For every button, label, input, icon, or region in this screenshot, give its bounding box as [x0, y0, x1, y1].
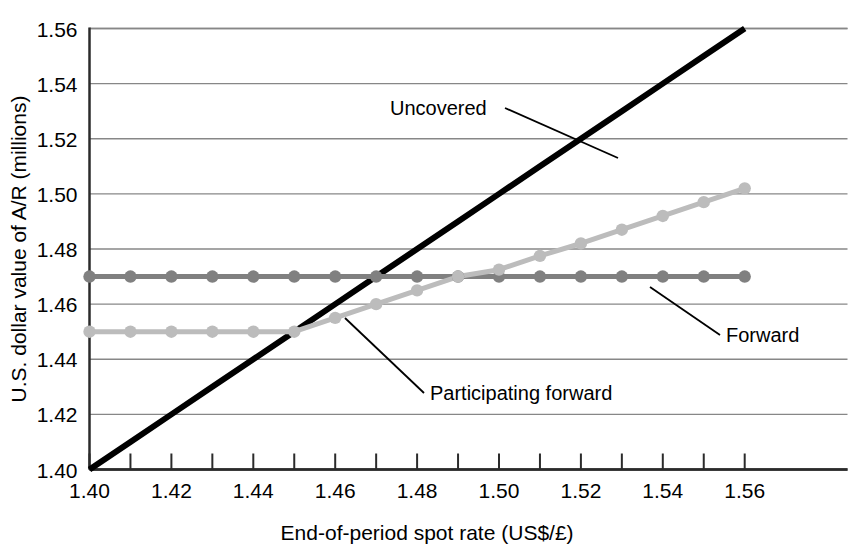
x-tick-label: 1.42 — [151, 479, 192, 502]
annotation-leader-line — [345, 318, 424, 393]
data-point-participating-forward — [739, 182, 751, 194]
y-tick-label: 1.44 — [37, 348, 78, 371]
data-point-participating-forward — [452, 270, 464, 282]
data-point-forward — [165, 270, 177, 282]
y-tick-label: 1.48 — [37, 238, 78, 261]
data-point-participating-forward — [165, 325, 177, 337]
data-point-participating-forward — [493, 263, 505, 275]
y-tick-label: 1.42 — [37, 403, 78, 426]
data-point-participating-forward — [657, 210, 669, 222]
data-point-participating-forward — [288, 325, 300, 337]
data-point-participating-forward — [83, 325, 95, 337]
y-tick-label: 1.54 — [37, 73, 78, 96]
annotation-leader-line — [650, 287, 720, 335]
annotation-label-participating-forward: Participating forward — [430, 382, 612, 404]
data-point-forward — [247, 270, 259, 282]
data-point-forward — [288, 270, 300, 282]
data-point-participating-forward — [370, 298, 382, 310]
data-point-participating-forward — [534, 250, 546, 262]
data-point-forward — [206, 270, 218, 282]
y-tick-label: 1.56 — [37, 18, 78, 41]
data-point-forward — [411, 270, 423, 282]
series-line-participating-forward — [90, 188, 745, 331]
chart-figure: 1.401.421.441.461.481.501.521.541.561.40… — [0, 0, 848, 560]
y-axis-title: U.S. dollar value of A/R (millions) — [7, 96, 30, 403]
y-tick-label: 1.50 — [37, 183, 78, 206]
data-point-participating-forward — [698, 196, 710, 208]
data-point-participating-forward — [575, 237, 587, 249]
x-tick-label: 1.50 — [479, 479, 520, 502]
data-point-forward — [83, 270, 95, 282]
data-point-forward — [534, 270, 546, 282]
x-tick-label: 1.46 — [315, 479, 356, 502]
data-point-forward — [124, 270, 136, 282]
data-point-forward — [739, 270, 751, 282]
data-point-participating-forward — [411, 284, 423, 296]
data-point-forward — [657, 270, 669, 282]
annotation-label-uncovered: Uncovered — [390, 97, 487, 119]
y-tick-label: 1.46 — [37, 293, 78, 316]
data-point-participating-forward — [206, 325, 218, 337]
annotation-label-forward: Forward — [726, 324, 799, 346]
x-tick-label: 1.52 — [560, 479, 601, 502]
data-point-participating-forward — [616, 224, 628, 236]
data-point-participating-forward — [124, 325, 136, 337]
x-tick-label: 1.48 — [397, 479, 438, 502]
x-tick-label: 1.54 — [642, 479, 683, 502]
x-axis-title: End-of-period spot rate (US$/£) — [281, 521, 574, 544]
x-tick-label: 1.56 — [724, 479, 765, 502]
data-point-forward — [616, 270, 628, 282]
x-tick-label: 1.40 — [69, 479, 110, 502]
y-tick-label: 1.52 — [37, 128, 78, 151]
data-point-forward — [370, 270, 382, 282]
line-chart: 1.401.421.441.461.481.501.521.541.561.40… — [0, 0, 848, 560]
x-tick-label: 1.44 — [233, 479, 274, 502]
data-point-forward — [329, 270, 341, 282]
data-point-participating-forward — [247, 325, 259, 337]
data-point-participating-forward — [329, 312, 341, 324]
data-point-forward — [575, 270, 587, 282]
data-point-forward — [698, 270, 710, 282]
